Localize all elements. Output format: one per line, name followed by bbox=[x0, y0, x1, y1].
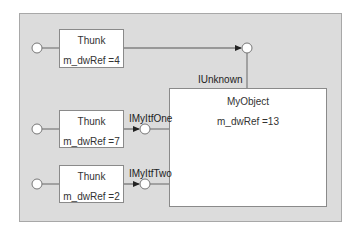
iunknown-label: IUnknown bbox=[198, 74, 242, 85]
object-refcount: m_dwRef =13 bbox=[170, 116, 326, 127]
thunk-box-2: Thunk m_dwRef =7 bbox=[59, 110, 124, 148]
thunk-title: Thunk bbox=[60, 171, 123, 182]
imyitfone-interface-lollipop bbox=[140, 124, 150, 134]
client-connector-3 bbox=[32, 179, 42, 189]
thunk-refcount: m_dwRef =4 bbox=[60, 55, 123, 66]
imyitfone-label: IMyItfOne bbox=[129, 113, 172, 124]
myobject-box: MyObject m_dwRef =13 bbox=[169, 88, 327, 207]
thunk-box-1: Thunk m_dwRef =4 bbox=[59, 29, 124, 68]
thunk-refcount: m_dwRef =2 bbox=[60, 191, 123, 202]
thunk-title: Thunk bbox=[60, 116, 123, 127]
client-connector-2 bbox=[32, 124, 42, 134]
client-connector-1 bbox=[32, 43, 42, 53]
imyitftwo-label: IMyItfTwo bbox=[129, 168, 172, 179]
thunk-title: Thunk bbox=[60, 35, 123, 46]
iunknown-interface-lollipop bbox=[242, 43, 252, 53]
thunk-refcount: m_dwRef =7 bbox=[60, 136, 123, 147]
object-title: MyObject bbox=[170, 96, 326, 107]
thunk-box-3: Thunk m_dwRef =2 bbox=[59, 165, 124, 203]
imyitftwo-interface-lollipop bbox=[140, 179, 150, 189]
